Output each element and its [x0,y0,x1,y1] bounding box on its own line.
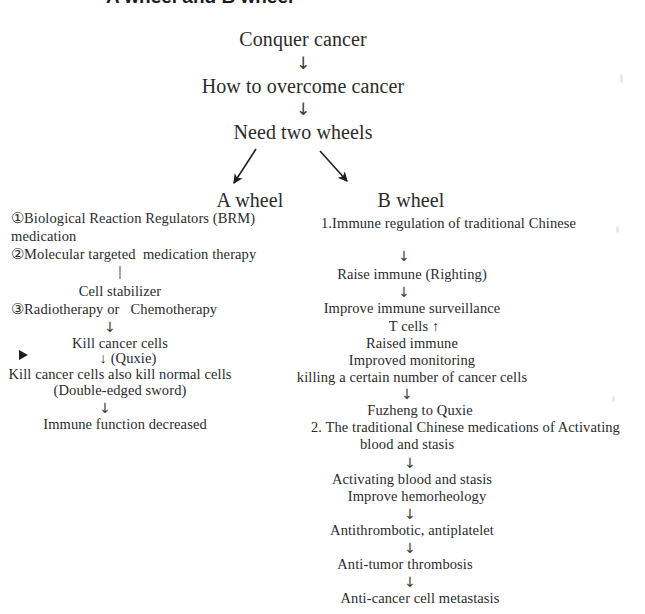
branch-arrow-right-icon [320,151,347,181]
b-wheel-line-15: Anti-cancer cell metastasis [341,591,500,607]
connector-bar-a [120,266,121,279]
node-conquer-cancer: Conquer cancer [239,29,366,51]
a-wheel-line-5: ③Radiotherapy or Chemotherapy [11,302,217,318]
a-wheel-line-1: ①Biological Reaction Regulators (BRM) [11,211,255,227]
arrow-down-icon-b5: ↓ [404,507,416,521]
node-need-two-wheels: Need two wheels [233,122,372,144]
b-wheel-line-2: Raise immune (Righting) [337,267,487,283]
a-wheel-line-3: ②Molecular targeted medication therapy [11,247,256,263]
a-wheel-line-9: (Double-edged sword) [54,383,187,399]
a-wheel-line-10: Immune function decreased [43,417,207,433]
branch-arrow-left-icon [234,149,256,183]
scan-speck [616,226,619,233]
heading-a-wheel: A wheel [217,190,284,212]
scan-speck [612,396,615,402]
arrow-down-icon-b1: ↓ [398,249,410,263]
b-wheel-line-10: blood and stasis [360,437,454,453]
b-wheel-line-4: T cells ↑ [389,319,440,335]
triangle-marker-icon [19,350,28,360]
b-wheel-line-1: 1.Immune regulation of traditional Chine… [321,216,576,232]
b-wheel-line-13: Antithrombotic, antiplatelet [330,523,494,539]
b-wheel-line-7: killing a certain number of cancer cells [297,370,527,386]
arrow-down-icon-b4: ↓ [404,456,416,470]
a-wheel-line-4: Cell stabilizer [79,284,161,300]
b-wheel-line-11: Activating blood and stasis [332,472,492,488]
arrow-down-icon-a1: ↓ [104,320,116,334]
arrow-down-icon-b7: ↓ [404,575,416,589]
b-wheel-line-12: Improve hemorheology [348,489,487,505]
b-wheel-line-6: Improved monitoring [349,353,475,369]
node-how-to-overcome-cancer: How to overcome cancer [202,76,405,98]
a-wheel-line-7: ↓ (Quxie) [100,351,157,367]
arrow-down-icon-2: ↓ [296,101,310,118]
page-title: A wheel and B wheel [106,0,293,8]
a-wheel-line-8: Kill cancer cells also kill normal cells [8,367,231,383]
a-wheel-line-2: medication [11,229,76,245]
b-wheel-line-8: Fuzheng to Quxie [367,403,473,419]
arrow-down-icon-b2: ↓ [398,285,410,299]
b-wheel-line-3: Improve immune surveillance [324,301,501,317]
b-wheel-line-14: Anti-tumor thrombosis [337,557,472,573]
scan-speck [620,74,623,83]
arrow-down-icon-b6: ↓ [404,541,416,555]
arrow-down-icon-1: ↓ [296,55,310,72]
heading-b-wheel: B wheel [378,190,445,212]
arrow-down-icon-b3: ↓ [401,387,413,401]
arrow-down-icon-a2: ↓ [99,401,111,415]
b-wheel-line-9: 2. The traditional Chinese medications o… [311,420,620,436]
branch-arrows [190,143,390,191]
b-wheel-line-5: Raised immune [366,336,458,352]
page-title-clip: A wheel and B wheel [0,0,645,13]
